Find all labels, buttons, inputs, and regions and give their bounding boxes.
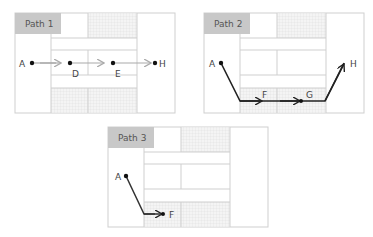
node-label: F: [262, 90, 267, 100]
node-h-icon: [153, 61, 157, 65]
node-a-icon: [30, 61, 34, 65]
panel-path-2: Path 2: [204, 13, 364, 113]
panel-title: Path 2: [214, 19, 242, 29]
panel-title: Path 1: [25, 19, 53, 29]
node-label: E: [115, 69, 121, 79]
node-label: G: [306, 90, 313, 100]
path-diagrams: Path 1 A D E H Path 2 A F G H Path 3: [0, 0, 373, 237]
node-label: A: [19, 59, 26, 69]
node-label: A: [209, 59, 216, 69]
node-label: D: [72, 69, 79, 79]
node-d-icon: [68, 61, 72, 65]
node-a-icon: [219, 61, 223, 65]
node-f-icon: [161, 212, 165, 216]
panel-title: Path 3: [118, 133, 146, 143]
node-a-icon: [124, 174, 128, 178]
node-label: H: [159, 59, 166, 69]
node-label: A: [115, 172, 122, 182]
node-g-icon: [299, 99, 303, 103]
node-label: F: [169, 210, 174, 220]
node-e-icon: [111, 61, 115, 65]
panel-path-3: Path 3: [108, 127, 268, 227]
node-label: H: [350, 59, 357, 69]
